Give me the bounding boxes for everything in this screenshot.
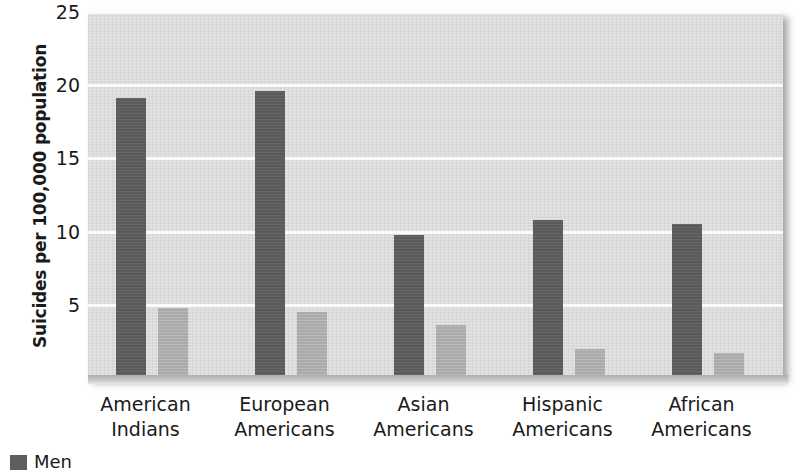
legend-label: Men <box>34 453 72 471</box>
x-axis-category-labels: AmericanIndiansEuropeanAmericansAsianAme… <box>88 392 783 448</box>
y-axis-tick-25: 25 <box>34 3 80 22</box>
legend-item-men: Men <box>10 452 72 472</box>
x-axis-label-line: European <box>215 392 354 417</box>
x-axis-label-line: American <box>76 392 215 417</box>
x-axis-label-line: African <box>632 392 771 417</box>
x-axis-baseline <box>88 375 788 384</box>
bar-men-african-americans <box>672 224 702 378</box>
x-axis-label-line: Hispanic <box>493 392 632 417</box>
bar-men-european-americans <box>255 91 285 378</box>
bar-women-asian-americans <box>436 325 466 378</box>
y-axis-tick-labels: 252015105 <box>34 0 80 400</box>
bars-layer <box>88 12 783 378</box>
y-axis-tick-10: 10 <box>34 223 80 242</box>
bar-women-european-americans <box>297 312 327 378</box>
bar-men-hispanic-americans <box>533 220 563 378</box>
bar-men-american-indians <box>116 98 146 378</box>
x-axis-label-4: AfricanAmericans <box>632 392 771 442</box>
y-axis-tick-5: 5 <box>34 296 80 315</box>
x-axis-label-0: AmericanIndians <box>76 392 215 442</box>
x-axis-label-3: HispanicAmericans <box>493 392 632 442</box>
plot-area <box>88 12 783 378</box>
bar-women-american-indians <box>158 308 188 378</box>
y-axis-tick-15: 15 <box>34 149 80 168</box>
x-axis-label-line: Asian <box>354 392 493 417</box>
x-axis-label-line: Indians <box>76 417 215 442</box>
x-axis-label-line: Americans <box>354 417 493 442</box>
legend-swatch-icon <box>10 455 27 470</box>
x-axis-label-2: AsianAmericans <box>354 392 493 442</box>
x-axis-label-line: Americans <box>493 417 632 442</box>
x-axis-label-1: EuropeanAmericans <box>215 392 354 442</box>
y-axis-tick-20: 20 <box>34 76 80 95</box>
chart-legend: Men <box>10 452 72 472</box>
x-axis-label-line: Americans <box>632 417 771 442</box>
bar-women-hispanic-americans <box>575 349 605 378</box>
bar-men-asian-americans <box>394 235 424 378</box>
x-axis-label-line: Americans <box>215 417 354 442</box>
bar-chart-figure: Suicides per 100,000 population 25201510… <box>0 0 800 472</box>
